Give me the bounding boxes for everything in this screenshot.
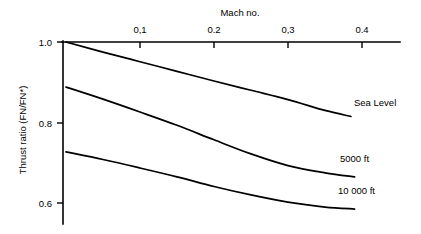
x-axis-title: Mach no. (220, 7, 259, 18)
x-tick-label-0.4: 0.4 (355, 24, 368, 35)
curve-sea-level (66, 42, 351, 116)
chart-canvas: Mach no. 0,1 0.2 0,3 0.4 1.0 0.8 0.6 Thr… (0, 0, 421, 234)
y-axis-title: Thrust ratio (FN/FN*) (17, 86, 28, 175)
thrust-ratio-chart: Mach no. 0,1 0.2 0,3 0.4 1.0 0.8 0.6 Thr… (0, 0, 421, 234)
series-label-sea-level: Sea Level (354, 97, 396, 108)
x-tick-label-0.2: 0.2 (207, 24, 220, 35)
curve-5000-ft (66, 87, 355, 177)
series-label-5000-ft: 5000 ft (340, 153, 369, 164)
y-tick-label-0.8: 0.8 (39, 118, 52, 129)
x-tick-label-0.1: 0,1 (133, 24, 146, 35)
y-tick-label-1.0: 1.0 (39, 37, 52, 48)
y-tick-label-0.6: 0.6 (39, 198, 52, 209)
x-tick-label-0.3: 0,3 (281, 24, 294, 35)
curve-10000-ft (66, 152, 355, 209)
series-label-10000-ft: 10 000 ft (338, 185, 375, 196)
